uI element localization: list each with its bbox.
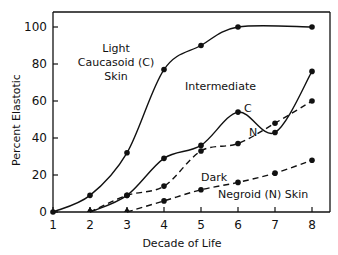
data-point-marker xyxy=(309,157,315,163)
data-point-marker xyxy=(272,120,278,126)
annotation-dark: Dark xyxy=(201,171,228,184)
x-tick-label: 3 xyxy=(123,218,131,232)
series-line xyxy=(127,160,312,212)
y-tick-label: 80 xyxy=(32,57,47,71)
line-chart: 12345678020406080100 Percent Elastotic D… xyxy=(0,0,338,255)
data-point-marker xyxy=(161,183,167,189)
y-axis-label: Percent Elastotic xyxy=(10,74,23,166)
x-axis-label: Decade of Life xyxy=(142,237,221,250)
y-tick-label: 0 xyxy=(39,205,47,219)
y-tick-label: 20 xyxy=(32,168,47,182)
y-tick-label: 40 xyxy=(32,131,47,145)
data-point-marker xyxy=(87,193,93,199)
data-point-marker xyxy=(235,109,241,115)
data-point-marker xyxy=(235,24,241,30)
x-tick-label: 2 xyxy=(86,218,94,232)
x-tick-label: 4 xyxy=(160,218,168,232)
data-point-marker xyxy=(235,180,241,186)
annotation-negroid: Negroid (N) Skin xyxy=(218,188,308,201)
annotation-c: C xyxy=(244,102,252,115)
plot-frame xyxy=(53,12,330,212)
data-point-marker xyxy=(198,143,204,149)
series-group xyxy=(50,24,315,215)
data-point-marker xyxy=(161,156,167,162)
annotation-skin: Skin xyxy=(104,70,127,83)
triangle-marker xyxy=(124,207,130,212)
x-tick-label: 6 xyxy=(234,218,242,232)
x-tick-label: 7 xyxy=(271,218,279,232)
data-point-marker xyxy=(272,170,278,176)
series-line xyxy=(53,26,312,212)
data-point-marker xyxy=(198,43,204,49)
data-point-marker xyxy=(161,67,167,73)
annotation-n: N xyxy=(249,126,257,139)
data-point-marker xyxy=(309,24,315,30)
data-point-marker xyxy=(235,141,241,147)
data-point-marker xyxy=(272,130,278,136)
data-point-marker xyxy=(309,69,315,75)
x-tick-label: 1 xyxy=(49,218,57,232)
annotation-intermediate: Intermediate xyxy=(185,80,256,93)
data-point-marker xyxy=(124,193,130,199)
data-point-marker xyxy=(161,198,167,204)
data-point-marker xyxy=(50,209,56,215)
annotation-caucasoid: Caucasoid (C) xyxy=(78,56,154,69)
data-point-marker xyxy=(309,98,315,104)
x-tick-label: 5 xyxy=(197,218,205,232)
data-point-marker xyxy=(198,148,204,154)
chart-container: 12345678020406080100 Percent Elastotic D… xyxy=(0,0,338,255)
y-tick-label: 60 xyxy=(32,94,47,108)
data-point-marker xyxy=(198,187,204,193)
y-tick-label: 100 xyxy=(24,20,47,34)
triangle-marker xyxy=(87,207,93,212)
data-point-marker xyxy=(124,150,130,156)
x-tick-label: 8 xyxy=(308,218,316,232)
annotation-light: Light xyxy=(102,42,130,55)
